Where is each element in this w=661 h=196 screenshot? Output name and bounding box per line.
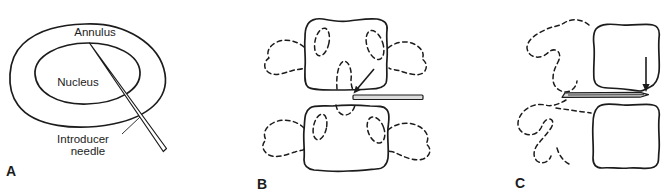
spinous-process-upper xyxy=(337,61,353,90)
panel-letter-b: B xyxy=(257,176,267,192)
pedicle-left-lower xyxy=(311,113,329,141)
lower-vertebral-body-lateral xyxy=(593,104,660,168)
target-arrow-icon xyxy=(642,57,649,92)
introducer-needle-label-line2: needle xyxy=(71,145,106,157)
upper-vertebral-body-lateral xyxy=(593,24,659,91)
pedicle-left-upper xyxy=(312,27,332,57)
annulus-label: Annulus xyxy=(74,26,116,38)
figure-canvas: Annulus Nucleus Introducer needle A B xyxy=(0,0,661,196)
transverse-process-right-lower xyxy=(388,123,430,160)
inferior-facet-arc-lower xyxy=(557,148,569,164)
panel-letter-c: C xyxy=(515,175,525,191)
posterior-elements-upper xyxy=(527,20,589,92)
pedicle-right-lower xyxy=(364,115,388,146)
needle-ap xyxy=(353,95,423,100)
panel-a: Annulus Nucleus Introducer needle A xyxy=(6,24,167,179)
transverse-process-left-lower xyxy=(263,120,304,156)
posterior-pedicle-line-lower xyxy=(556,108,591,113)
diagram-svg: Annulus Nucleus Introducer needle A B xyxy=(0,0,661,196)
posterior-elements-lower xyxy=(518,100,566,163)
panel-c: C xyxy=(515,20,659,191)
introducer-needle-label-line1: Introducer xyxy=(57,133,109,145)
panel-b: B xyxy=(257,19,430,192)
spinous-process-lower xyxy=(336,105,355,115)
pedicle-right-upper xyxy=(363,28,387,61)
transverse-process-right-upper xyxy=(388,42,426,75)
nucleus-label: Nucleus xyxy=(57,76,99,88)
transverse-process-left-upper xyxy=(265,40,304,74)
panel-letter-a: A xyxy=(6,163,16,179)
